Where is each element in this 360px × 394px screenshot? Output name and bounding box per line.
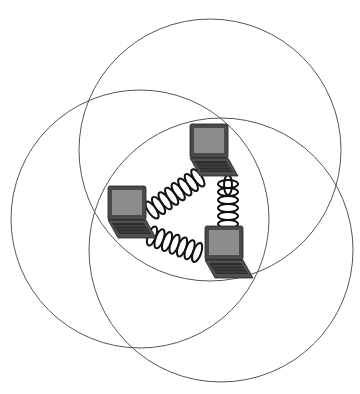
laptop-top-icon <box>190 124 238 176</box>
network-diagram <box>0 0 360 394</box>
coil-link-left-top <box>143 167 207 220</box>
coil-link-top-right <box>218 175 238 228</box>
laptop-right-icon <box>205 226 253 278</box>
coil-link-left-right <box>145 225 204 263</box>
